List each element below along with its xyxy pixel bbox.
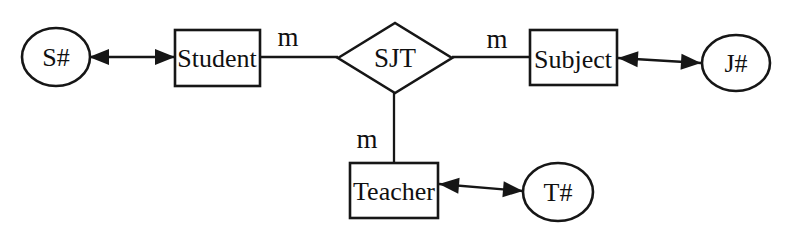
cardinality-student-sjt: m (277, 22, 298, 52)
entity-subject-label: Subject (534, 45, 613, 74)
er-diagram-canvas: S# Student SJT Subject J# Teacher T# m m… (0, 0, 787, 237)
edge-teacher-key-double-arrow (439, 184, 523, 191)
cardinality-sjt-subject: m (486, 24, 507, 54)
er-diagram: S# Student SJT Subject J# Teacher T# m m… (0, 0, 787, 237)
edge-subject-key-double-arrow (618, 58, 701, 63)
attribute-subject-key-label: J# (724, 49, 747, 78)
entity-teacher-label: Teacher (353, 177, 435, 206)
entity-student-label: Student (177, 44, 257, 73)
relationship-sjt-label: SJT (374, 43, 417, 73)
attribute-student-key-label: S# (42, 43, 69, 72)
cardinality-sjt-teacher: m (356, 124, 377, 154)
attribute-teacher-key-label: T# (544, 178, 573, 207)
